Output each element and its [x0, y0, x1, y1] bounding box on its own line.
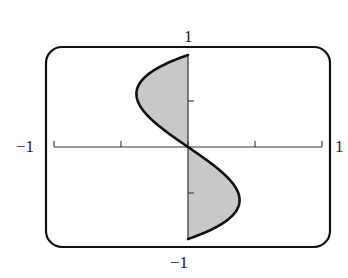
x-axis-min-label: −1	[16, 138, 34, 155]
y-axis-min-label: −1	[170, 254, 188, 271]
y-axis-max-label: 1	[184, 28, 193, 45]
chart-canvas	[0, 0, 348, 278]
shaded-region-upper	[136, 55, 188, 147]
x-axis-max-label: 1	[335, 138, 344, 155]
plot-area	[54, 55, 322, 239]
shaded-region-lower	[188, 147, 240, 239]
